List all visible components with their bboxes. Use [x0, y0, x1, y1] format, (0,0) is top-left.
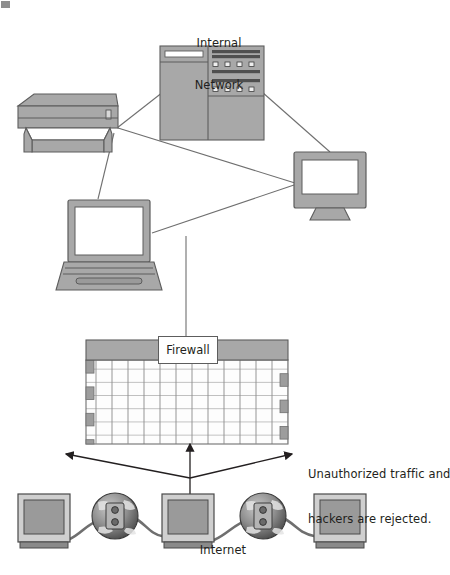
- firewall-brick-offset-joints: [86, 360, 288, 444]
- internet-globe-left[interactable]: [92, 493, 138, 539]
- rejected-traffic-note-line2: hackers are rejected.: [308, 512, 450, 527]
- firewall-label: Firewall: [166, 343, 209, 357]
- laptop-trackpad: [76, 278, 142, 284]
- internet-monitor-left-screen: [24, 500, 64, 534]
- desktop-monitor-stand: [310, 208, 350, 220]
- desktop-monitor-screen: [302, 160, 358, 194]
- internet-globe-right-port-top: [260, 507, 267, 514]
- internet-monitor-center[interactable]: [162, 494, 214, 548]
- internal-network-title-line1: Internal: [174, 36, 264, 50]
- connection-laptop-monitor: [152, 185, 294, 233]
- firewall-label-box: Firewall: [158, 336, 218, 364]
- connection-printer-server: [117, 92, 163, 128]
- internet-monitor-left[interactable]: [18, 494, 70, 548]
- connection-server-monitor: [262, 92, 330, 152]
- printer[interactable]: [18, 94, 118, 152]
- printer-paper-tray: [32, 140, 104, 152]
- internet-monitor-left-base: [20, 542, 68, 548]
- rejected-arrow-right: [190, 454, 292, 478]
- internet-monitor-center-screen: [168, 500, 208, 534]
- printer-output-slot: [26, 128, 110, 140]
- laptop[interactable]: [56, 200, 162, 290]
- firewall-edge-bricks-right: [280, 374, 288, 439]
- internet-globe-right-port-bottom: [260, 519, 267, 526]
- printer-top-face: [18, 94, 118, 106]
- desktop-monitor[interactable]: [294, 152, 366, 220]
- internet-label: Internet: [163, 543, 283, 557]
- internet-globe-left-port-bottom: [112, 519, 119, 526]
- internal-network-title-line2: Network: [174, 78, 264, 92]
- internet-globe-right[interactable]: [240, 493, 286, 539]
- rejected-traffic-note: Unauthorized traffic and hackers are rej…: [308, 437, 450, 557]
- rejected-traffic-note-line1: Unauthorized traffic and: [308, 467, 450, 482]
- network-diagram-canvas: Internal Network Firewall Unauthorized t…: [0, 0, 450, 575]
- printer-body: [18, 106, 118, 128]
- internet-globe-left-port-top: [112, 507, 119, 514]
- corner-registration-mark: [1, 1, 10, 8]
- internal-network-title: Internal Network: [174, 8, 264, 120]
- rejected-arrow-left: [66, 454, 190, 478]
- laptop-keyboard-base: [56, 262, 162, 290]
- laptop-screen: [75, 207, 143, 255]
